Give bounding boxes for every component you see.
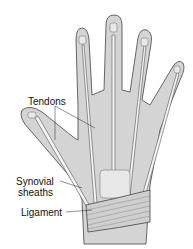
label-synovial-line2: sheaths [18,187,53,198]
bone [28,112,36,118]
bone [141,38,148,46]
label-tendons: Tendons [28,96,66,107]
label-ligament: Ligament [21,207,62,218]
carpal-bones [100,170,130,198]
bone [79,36,86,44]
label-synovial-line1: Synovial [16,176,54,187]
bone [110,23,117,32]
bone [174,66,180,73]
